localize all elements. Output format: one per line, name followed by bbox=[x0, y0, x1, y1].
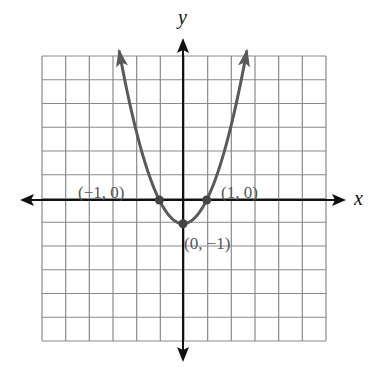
y-axis-label: y bbox=[176, 6, 187, 29]
x-axis-label: x bbox=[353, 187, 363, 209]
point-label-right: (1, 0) bbox=[221, 183, 258, 202]
point-label-left: (−1, 0) bbox=[78, 183, 124, 202]
data-point bbox=[179, 219, 188, 228]
parabola-graph: y x (−1, 0) (1, 0) (0, −1) bbox=[0, 0, 381, 367]
point-label-vertex: (0, −1) bbox=[184, 234, 230, 253]
data-point bbox=[155, 196, 164, 205]
axes bbox=[20, 38, 346, 362]
data-point bbox=[202, 196, 211, 205]
